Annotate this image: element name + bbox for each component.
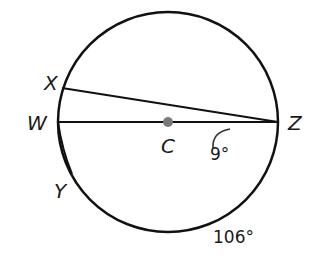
label-c: C xyxy=(161,134,175,158)
chord-xz xyxy=(62,88,278,122)
center-point xyxy=(163,117,173,127)
angle-label: 9° xyxy=(210,144,229,164)
label-y: Y xyxy=(54,179,68,203)
label-z: Z xyxy=(287,111,303,135)
label-x: X xyxy=(43,71,59,95)
arc-label: 106° xyxy=(213,227,254,247)
circle-diagram: X W Y Z C 9° 106° xyxy=(0,0,315,276)
label-w: W xyxy=(27,111,48,135)
